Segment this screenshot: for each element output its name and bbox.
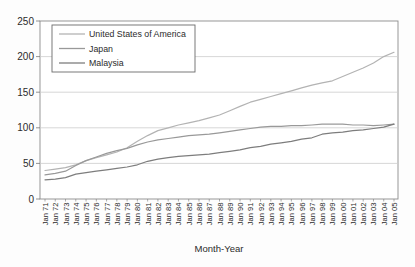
x-tick-label: Jan 76 bbox=[92, 203, 101, 226]
x-tick-label: Jan 98 bbox=[318, 203, 327, 226]
x-tick-label: Jan 05 bbox=[390, 203, 399, 226]
x-tick-label: Jan 78 bbox=[113, 203, 122, 226]
x-tick-label: Jan 97 bbox=[308, 203, 317, 226]
x-tick-label: Jan 85 bbox=[185, 203, 194, 226]
x-tick-label: Jan 73 bbox=[62, 203, 71, 226]
x-tick-label: Jan 95 bbox=[287, 203, 296, 226]
x-tick-label: Jan 02 bbox=[359, 203, 368, 226]
y-tick-label: 50 bbox=[23, 158, 35, 169]
x-tick-label: Jan 84 bbox=[174, 203, 183, 226]
x-tick-label: Jan 88 bbox=[216, 203, 225, 226]
y-tick-label: 0 bbox=[28, 194, 34, 205]
x-tick-label: Jan 74 bbox=[72, 203, 81, 226]
x-tick-label: Jan 71 bbox=[41, 203, 50, 226]
x-tick-label: Jan 79 bbox=[123, 203, 132, 226]
x-tick-label: Jan 81 bbox=[144, 203, 153, 226]
legend-item-label: Malaysia bbox=[89, 58, 124, 68]
x-tick-label: Jan 93 bbox=[267, 203, 276, 226]
x-tick-label: Jan 01 bbox=[349, 203, 358, 226]
x-tick-label: Jan 03 bbox=[369, 203, 378, 226]
x-tick-label: Jan 87 bbox=[205, 203, 214, 226]
x-tick-label: Jan 90 bbox=[236, 203, 245, 226]
x-tick-label: Jan 92 bbox=[257, 203, 266, 226]
x-tick-label: Jan 86 bbox=[195, 203, 204, 226]
y-tick-label: 250 bbox=[17, 16, 34, 27]
cpi-line-chart-figure: 050100150200250Jan 71Jan 72Jan 73Jan 74J… bbox=[0, 0, 415, 267]
x-tick-label: Jan 83 bbox=[164, 203, 173, 226]
x-tick-label: Jan 80 bbox=[133, 203, 142, 226]
x-tick-label: Jan 75 bbox=[82, 203, 91, 226]
y-tick-label: 100 bbox=[17, 122, 34, 133]
x-tick-label: Jan 77 bbox=[103, 203, 112, 226]
line-chart-canvas: 050100150200250Jan 71Jan 72Jan 73Jan 74J… bbox=[0, 0, 415, 267]
x-tick-label: Jan 89 bbox=[226, 203, 235, 226]
legend-item-label: Japan bbox=[89, 44, 113, 54]
x-tick-label: Jan 94 bbox=[277, 203, 286, 226]
x-tick-label: Jan 99 bbox=[328, 203, 337, 226]
x-tick-label: Jan 72 bbox=[51, 203, 60, 226]
x-tick-label: Jan 00 bbox=[339, 203, 348, 226]
y-tick-label: 200 bbox=[17, 51, 34, 62]
x-tick-label: Jan 96 bbox=[298, 203, 307, 226]
x-axis-title: Month-Year bbox=[40, 243, 398, 254]
x-tick-label: Jan 82 bbox=[154, 203, 163, 226]
legend-item-label: United States of America bbox=[89, 29, 186, 39]
x-tick-label: Jan 91 bbox=[246, 203, 255, 226]
y-tick-label: 150 bbox=[17, 87, 34, 98]
x-tick-label: Jan 04 bbox=[380, 203, 389, 226]
